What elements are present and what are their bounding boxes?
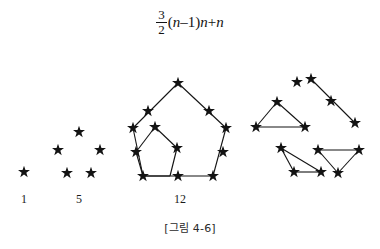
connector-lines-layer [133,79,359,176]
connector-line [155,127,177,148]
star-icon [291,76,303,87]
star-icon [73,126,85,137]
connector-line [170,148,177,176]
connector-line [277,102,305,127]
star-icon [275,142,287,153]
star-icon [85,167,97,178]
star-icon [61,167,73,178]
star-icon [18,166,30,177]
figure-caption: [그림 4-6] [0,219,380,235]
connector-line [178,83,226,128]
count-label-5: 5 [76,192,82,207]
star-icon [94,144,106,155]
count-label-1: 1 [21,192,27,207]
count-label-12: 12 [174,192,186,207]
connector-line [136,152,143,176]
star-icon [52,144,64,155]
star-icon [203,105,215,116]
star-pattern-canvas [0,0,380,249]
connector-line [133,83,178,128]
star-icon [130,146,142,157]
stars-layer [18,73,365,181]
star-icon [325,95,337,106]
star-icon [142,105,154,116]
figure-4-6: 3 2 (n–1)n+n 1512 [그림 4-6] [0,0,380,249]
